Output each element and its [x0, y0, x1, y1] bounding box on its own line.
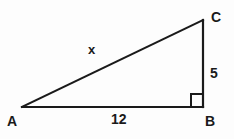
triangle-figure: C A B x 5 12 — [0, 0, 234, 139]
vertex-label-b: B — [205, 114, 215, 128]
right-angle-marker-icon — [191, 94, 203, 107]
hypotenuse-line — [22, 20, 203, 107]
side-label-hypotenuse: x — [88, 43, 95, 56]
side-label-vertical-leg: 5 — [210, 66, 218, 80]
vertex-label-a: A — [7, 114, 17, 128]
vertex-label-c: C — [211, 10, 221, 24]
side-label-horizontal-leg: 12 — [111, 112, 127, 126]
